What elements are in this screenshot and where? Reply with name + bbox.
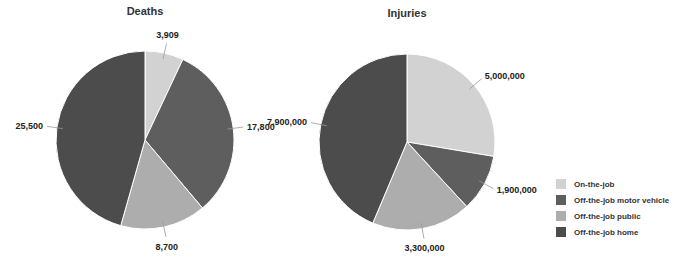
legend-item-public: Off-the-job public [556,208,669,224]
legend-swatch [556,227,566,237]
pie-slice [407,54,495,156]
slice-value-label: 1,900,000 [497,185,537,195]
legend-label: Off-the-job home [574,228,638,237]
slice-value-label: 8,700 [156,242,179,252]
slice-value-label: 7,900,000 [267,117,307,127]
legend-item-home: Off-the-job home [556,224,669,240]
legend: On-the-job Off-the-job motor vehicle Off… [556,176,669,240]
slice-value-label: 25,500 [15,121,43,131]
legend-swatch [556,195,566,205]
legend-swatch [556,179,566,189]
slice-value-label: 5,000,000 [485,71,525,81]
legend-item-motor-vehicle: Off-the-job motor vehicle [556,192,669,208]
legend-label: Off-the-job public [574,212,641,221]
legend-label: On-the-job [574,180,614,189]
legend-swatch [556,211,566,221]
legend-item-on-the-job: On-the-job [556,176,669,192]
slice-value-label: 3,300,000 [405,243,445,253]
slice-value-label: 3,909 [156,30,179,40]
legend-label: Off-the-job motor vehicle [574,196,669,205]
